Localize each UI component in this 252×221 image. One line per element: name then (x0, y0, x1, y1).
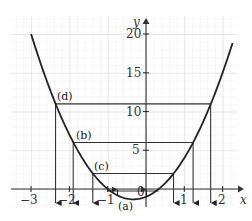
x-tick-label: −3 (20, 193, 38, 207)
x-tick-label: −2 (58, 193, 76, 207)
x-tick-label: 1 (180, 193, 188, 207)
case-label-c: (c) (94, 160, 109, 173)
x-axis-arrow-icon (238, 186, 244, 193)
grid (11, 16, 237, 207)
x-tick-label: −1 (97, 193, 115, 207)
case-label-b: (b) (76, 129, 92, 142)
y-axis-label: y (132, 15, 140, 29)
y-tick-label: 20 (126, 27, 141, 41)
x-axis-label: x (240, 193, 247, 207)
x-tick-label: 2 (218, 193, 226, 207)
case-label-a: (a) (118, 200, 133, 213)
origin-label: 0 (137, 185, 145, 199)
y-tick-label: 5 (132, 143, 140, 157)
case-label-d: (d) (57, 90, 73, 103)
parabola-chart: −3 −2 −1 1 2 5 10 15 20 0 x y (d) (b) (c… (0, 0, 252, 221)
y-tick-label: 15 (126, 66, 141, 80)
y-tick-label: 10 (126, 105, 141, 119)
